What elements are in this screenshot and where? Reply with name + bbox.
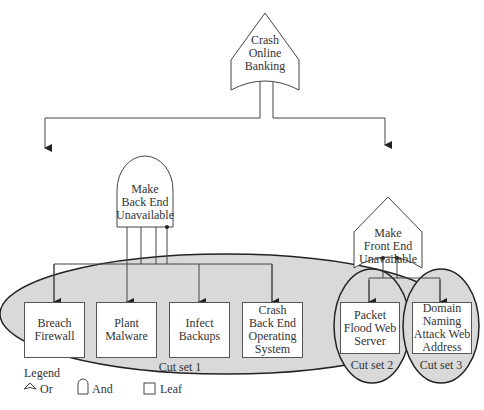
legend-title: Legend: [24, 366, 60, 381]
cut-set-1-label: Cut set 1: [140, 360, 220, 375]
and-gate-icon: [78, 379, 88, 394]
legend-or-label: Or: [40, 382, 53, 397]
leaf-infect-backups: InfectBackups: [169, 302, 230, 358]
root-gate-label: Crash Online Banking: [231, 34, 299, 73]
front-end-gate-label: Make Front End Unavailable: [352, 227, 424, 266]
leaf-packet-flood-web-server: PacketFlood WebServer: [340, 302, 400, 354]
cut-set-3-label: Cut set 3: [409, 358, 473, 373]
leaf-plant-malware: PlantMalware: [96, 302, 157, 358]
back-end-gate-label: Make Back End Unavailable: [113, 183, 177, 222]
or-gate-icon: [24, 383, 36, 389]
cut-set-2-label: Cut set 2: [340, 358, 404, 373]
leaf-crash-back-end-os: CrashBack EndOperatingSystem: [242, 302, 303, 358]
legend-and-label: And: [92, 382, 113, 397]
leaf-breach-firewall: BreachFirewall: [24, 302, 85, 358]
leaf-icon: [144, 383, 155, 394]
legend-leaf-label: Leaf: [160, 382, 182, 397]
leaf-domain-naming-attack: DomainNamingAttack WebAddress: [412, 302, 472, 354]
